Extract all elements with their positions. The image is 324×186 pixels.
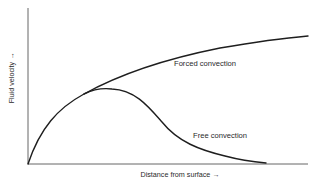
velocity-profile-chart: Forced convection Free convection Fluid … — [0, 0, 324, 186]
y-axis-label: Fluid velocity → — [7, 53, 16, 104]
x-axis-label: Distance from surface → — [140, 170, 219, 179]
forced-convection-label: Forced convection — [174, 59, 236, 68]
forced-convection-curve — [28, 36, 308, 164]
free-convection-curve — [84, 89, 266, 163]
free-convection-label: Free convection — [193, 131, 247, 140]
